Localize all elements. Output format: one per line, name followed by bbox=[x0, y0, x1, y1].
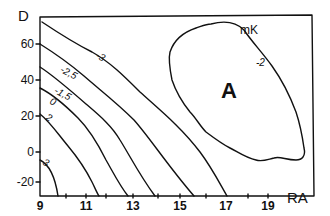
x-tick-label: 13 bbox=[121, 200, 145, 212]
y-tick-label: 0 bbox=[4, 146, 34, 158]
y-axis-title: D bbox=[18, 8, 29, 23]
x-tick-label: 9 bbox=[28, 200, 52, 212]
contour-chart bbox=[0, 0, 330, 216]
x-axis-title: RA bbox=[287, 190, 308, 205]
x-tick-label: 17 bbox=[214, 200, 238, 212]
y-tick-label: 60 bbox=[4, 38, 34, 50]
x-tick-label: 11 bbox=[74, 200, 98, 212]
contour-minus-3 bbox=[42, 22, 227, 196]
x-tick-label: 15 bbox=[168, 200, 192, 212]
y-tick-label: -20 bbox=[4, 176, 34, 188]
region-label-a: A bbox=[221, 80, 237, 102]
contour-2 bbox=[40, 114, 99, 196]
contour-label-minus-2: -2 bbox=[256, 58, 265, 68]
y-tick-label: 40 bbox=[4, 74, 34, 86]
y-tick-label: 20 bbox=[4, 110, 34, 122]
x-tick-label: 19 bbox=[256, 200, 280, 212]
plot-frame bbox=[40, 15, 314, 196]
unit-label: mK bbox=[240, 24, 258, 36]
